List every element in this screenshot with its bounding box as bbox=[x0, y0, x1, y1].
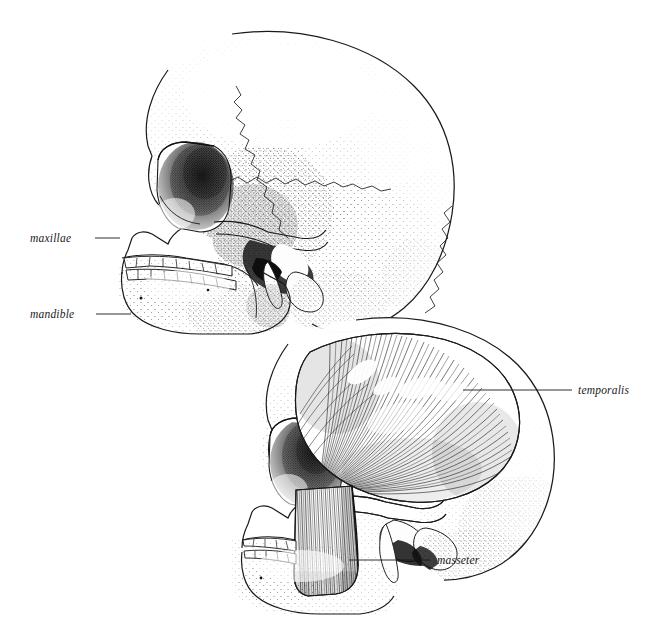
mental-foramen bbox=[140, 297, 143, 300]
anatomical-plate: maxillae mandible temporalis masseter bbox=[0, 0, 646, 634]
label-maxillae-text: maxillae bbox=[30, 232, 71, 244]
mandible-foramen-mark bbox=[207, 289, 210, 292]
label-temporalis-text: temporalis bbox=[578, 384, 630, 397]
label-mandible-text: mandible bbox=[30, 308, 74, 320]
mental-foramen-2 bbox=[260, 577, 263, 580]
orbit bbox=[155, 142, 234, 232]
label-masseter-text: masseter bbox=[437, 554, 480, 566]
plate-canvas: maxillae mandible temporalis masseter bbox=[0, 0, 646, 634]
